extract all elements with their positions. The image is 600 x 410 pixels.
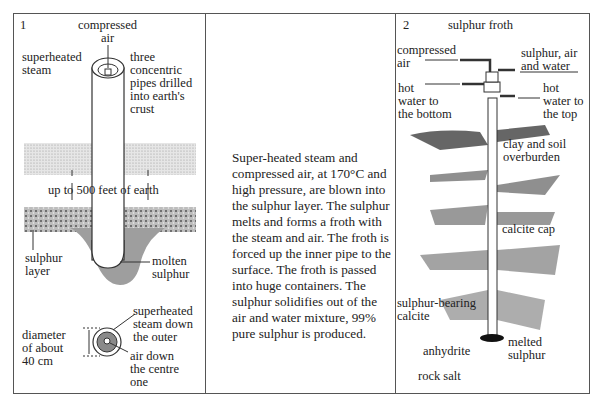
panel-1-number: 1: [20, 19, 26, 32]
label-rock-salt: rock salt: [418, 370, 461, 383]
label-sulphur-layer: sulphur layer: [25, 252, 63, 278]
label-superheated-steam: superheated steam: [22, 51, 82, 77]
label-anhydrite: anhydrite: [423, 345, 470, 358]
panel-2-title: sulphur froth: [448, 19, 513, 32]
label-hot-water-top: hot water to the top: [543, 82, 584, 121]
label-clay-overburden: clay and soil overburden: [503, 138, 566, 164]
label-hot-water-bottom: hot water to the bottom: [398, 82, 452, 121]
label-output: sulphur, air and water: [521, 47, 577, 73]
label-three-pipes: three concentric pipes drilled into eart…: [130, 51, 192, 116]
label-steam-outer: superheated steam down the outer: [133, 305, 193, 344]
label-melted-sulphur: melted sulphur: [508, 336, 546, 362]
label-molten-sulphur: molten sulphur: [152, 255, 190, 281]
label-diameter: diameter of about 40 cm: [22, 329, 66, 368]
label-sulphur-bearing-calcite: sulphur-bearing calcite: [397, 297, 476, 323]
label-air-centre: air down the centre one: [130, 350, 179, 389]
panel-2-number: 2: [403, 19, 409, 32]
process-description: Super-heated steam and compressed air, a…: [232, 150, 392, 342]
label-compressed-air-1: compressed air: [78, 19, 137, 45]
label-calcite-cap: calcite cap: [502, 223, 555, 236]
label-depth: up to 500 feet of earth: [48, 184, 159, 197]
label-compressed-air-2: compressed air: [397, 44, 456, 70]
